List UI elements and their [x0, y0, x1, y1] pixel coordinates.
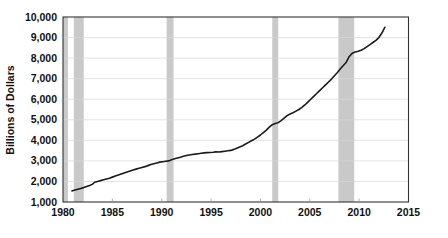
- recession-band-3: [272, 17, 278, 202]
- x-tick-label-4: 2000: [249, 206, 273, 218]
- y-tick-label-3: 4,000: [31, 134, 57, 146]
- y-tick-label-2: 3,000: [31, 154, 57, 166]
- x-tick-label-2: 1990: [150, 206, 174, 218]
- x-tick-label-3: 1995: [199, 206, 223, 218]
- x-tick-label-7: 2015: [397, 206, 421, 218]
- recession-band-4: [338, 17, 354, 202]
- y-tick-label-1: 2,000: [31, 175, 57, 187]
- y-tick-label-7: 8,000: [31, 52, 57, 64]
- y-tick-label-9: 10,000: [25, 11, 57, 23]
- line-chart: 1,0002,0003,0004,0005,0006,0007,0008,000…: [0, 0, 448, 238]
- recession-band-2: [167, 17, 174, 202]
- chart-container: 1,0002,0003,0004,0005,0006,0007,0008,000…: [0, 0, 448, 238]
- x-tick-label-0: 1980: [51, 206, 75, 218]
- recession-band-0: [63, 17, 68, 202]
- y-tick-label-5: 6,000: [31, 93, 57, 105]
- y-tick-label-4: 5,000: [31, 113, 57, 125]
- x-tick-label-6: 2010: [347, 206, 371, 218]
- y-tick-label-6: 7,000: [31, 72, 57, 84]
- x-tick-label-5: 2005: [298, 206, 322, 218]
- y-axis-title: Billions of Dollars: [4, 65, 16, 154]
- recession-band-1: [74, 17, 84, 202]
- y-tick-label-8: 9,000: [31, 31, 57, 43]
- x-tick-label-1: 1985: [101, 206, 125, 218]
